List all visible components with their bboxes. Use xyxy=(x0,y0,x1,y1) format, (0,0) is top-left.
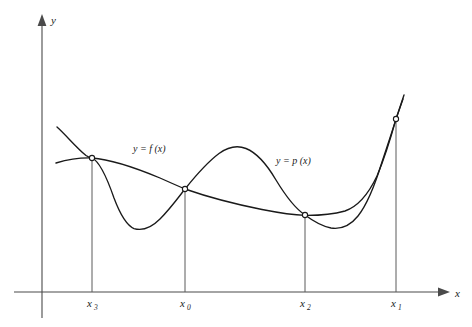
tick-label-x1-base: x xyxy=(390,297,396,309)
node-marker-x1 xyxy=(393,116,398,121)
node-marker-x0 xyxy=(182,186,187,191)
tick-label-x1: x 1 xyxy=(390,297,402,312)
figure-canvas: y x y = f (x) y = p (x) x 3 x 0 x 2 x 1 xyxy=(0,0,472,327)
y-axis-label: y xyxy=(50,14,56,26)
x-axis-arrowhead xyxy=(438,288,450,297)
curve-label-f: y = f (x) xyxy=(132,143,166,155)
x-axis-label: x xyxy=(454,287,460,299)
tick-label-x0-sub: 0 xyxy=(187,303,191,312)
tick-label-x2: x 2 xyxy=(299,297,311,312)
tick-label-x3-sub: 3 xyxy=(93,303,98,312)
y-axis-group xyxy=(38,14,47,318)
tick-label-x2-base: x xyxy=(299,297,305,309)
x-axis-group xyxy=(14,288,450,297)
tick-label-x0: x 0 xyxy=(179,297,191,312)
tick-label-x1-sub: 1 xyxy=(398,303,402,312)
tick-label-x2-sub: 2 xyxy=(307,303,311,312)
node-marker-x3 xyxy=(89,155,94,160)
curve-f xyxy=(56,99,403,215)
tick-label-x3: x 3 xyxy=(86,297,98,312)
tick-label-x3-base: x xyxy=(86,297,92,309)
math-plot-svg: y x y = f (x) y = p (x) x 3 x 0 x 2 x 1 xyxy=(0,0,472,327)
tick-label-x0-base: x xyxy=(179,297,185,309)
node-marker-x2 xyxy=(302,212,307,217)
node-markers-group xyxy=(89,116,398,217)
curve-label-p: y = p (x) xyxy=(275,155,311,167)
y-axis-arrowhead xyxy=(38,14,47,26)
curve-p xyxy=(57,95,404,229)
